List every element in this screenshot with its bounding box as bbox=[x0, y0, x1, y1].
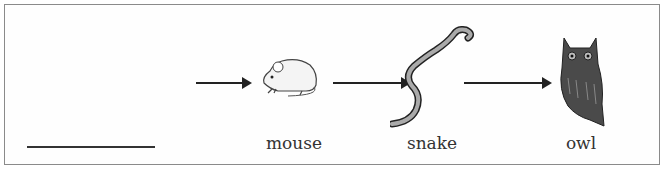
arrow-snake-to-owl bbox=[464, 82, 550, 84]
arrow-blank-to-mouse bbox=[196, 82, 250, 84]
label-owl: owl bbox=[541, 133, 621, 153]
mouse-icon bbox=[258, 55, 322, 99]
label-snake: snake bbox=[392, 133, 472, 153]
snake-icon bbox=[390, 26, 476, 128]
owl-icon bbox=[556, 34, 606, 128]
label-mouse: mouse bbox=[254, 133, 334, 153]
answer-blank-line[interactable] bbox=[27, 146, 155, 148]
